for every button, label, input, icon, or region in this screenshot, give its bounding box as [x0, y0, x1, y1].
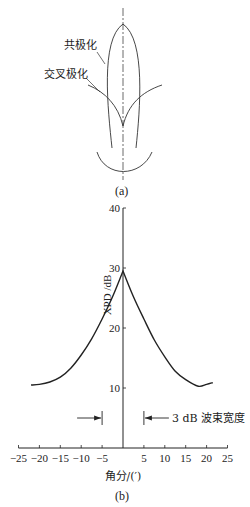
x-tick-label: 10: [159, 452, 171, 464]
x-tick-label: −5: [96, 452, 108, 464]
arrow-left-icon: [145, 416, 152, 421]
figure-canvas: 共极化 交叉极化 (a) −25−20−15−10−55101520251020…: [0, 0, 250, 507]
y-tick-label: 20: [109, 322, 121, 334]
x-tick-label: 5: [141, 452, 147, 464]
x-tick-label: 25: [222, 452, 234, 464]
y-tick-label: 10: [109, 382, 121, 394]
figure-b-caption: (b): [115, 489, 129, 503]
arrow-right-icon: [94, 416, 101, 421]
co-polar-lobe: [107, 24, 139, 148]
beamwidth-label: 3 dB 波束宽度: [172, 411, 245, 425]
figure-a-diagram: [86, 8, 162, 180]
xpd-chart: −25−20−15−10−551015202510203040XPD /dB角分…: [10, 202, 245, 483]
x-tick-label: −10: [73, 452, 91, 464]
x-tick-label: 15: [180, 452, 192, 464]
reflector-arc: [97, 152, 152, 172]
x-tick-label: −15: [52, 452, 70, 464]
co-polar-label: 共极化: [64, 38, 97, 52]
y-tick-label: 40: [109, 202, 121, 214]
cross-polar-lobe-right: [123, 85, 162, 126]
xpd-curve: [31, 271, 213, 386]
co-polar-leader: [97, 52, 105, 64]
x-tick-label: 20: [201, 452, 213, 464]
figure-a-caption: (a): [115, 184, 128, 198]
cross-polar-lobe-left: [88, 85, 123, 126]
x-tick-label: −25: [10, 452, 28, 464]
x-axis-label: 角分/(′): [105, 470, 142, 483]
cross-polar-label: 交叉极化: [44, 67, 88, 81]
y-tick-label: 30: [109, 262, 121, 274]
x-tick-label: −20: [31, 452, 49, 464]
